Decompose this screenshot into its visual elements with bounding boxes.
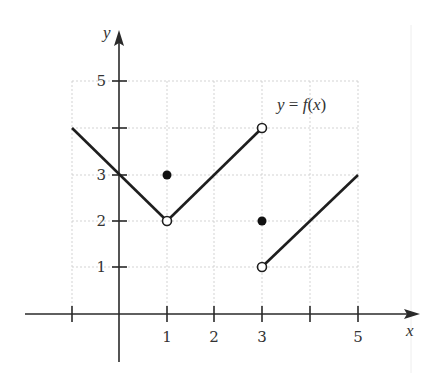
function-label: y = f(x) [275, 95, 326, 114]
x-tick-label-2: 2 [209, 328, 219, 346]
segment-left-decreasing [72, 128, 164, 218]
segment-right-increasing [265, 175, 358, 264]
x-tick-label-5: 5 [353, 328, 363, 346]
y-tick-label-5: 5 [96, 72, 106, 90]
x-axis [25, 309, 420, 319]
curve [72, 128, 358, 264]
filled-point-1-3 [163, 171, 172, 180]
x-tick-label-1: 1 [162, 328, 172, 346]
grid [72, 81, 358, 314]
filled-point-3-2 [258, 217, 267, 226]
y-axis [114, 30, 124, 362]
open-point-3-4 [258, 124, 267, 133]
open-point-1-2 [163, 217, 172, 226]
x-axis-label: x [405, 321, 414, 340]
open-point-3-1 [258, 263, 267, 272]
x-tick-label-3: 3 [257, 328, 267, 346]
y-tick-label-2: 2 [96, 212, 106, 230]
y-axis-label: y [101, 23, 111, 42]
function-graph: 1 2 3 5 5 3 2 1 y x y = f(x) [0, 0, 440, 373]
y-tick-label-3: 3 [96, 166, 106, 184]
segment-middle-increasing [170, 131, 259, 218]
y-tick-label-1: 1 [96, 258, 106, 276]
